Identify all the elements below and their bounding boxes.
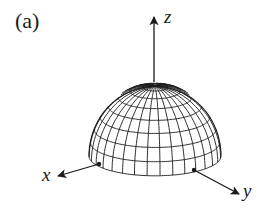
hemisphere-diagram bbox=[0, 0, 270, 224]
y-intercept-point bbox=[192, 168, 196, 172]
x-intercept-point bbox=[97, 162, 101, 166]
y-axis-label: y bbox=[243, 180, 251, 202]
hemisphere-wireframe bbox=[89, 83, 221, 176]
panel-label: (a) bbox=[15, 8, 39, 34]
y-axis bbox=[194, 170, 239, 194]
z-axis-label: z bbox=[164, 6, 171, 28]
x-axis bbox=[58, 164, 99, 176]
x-axis-label: x bbox=[42, 164, 50, 186]
